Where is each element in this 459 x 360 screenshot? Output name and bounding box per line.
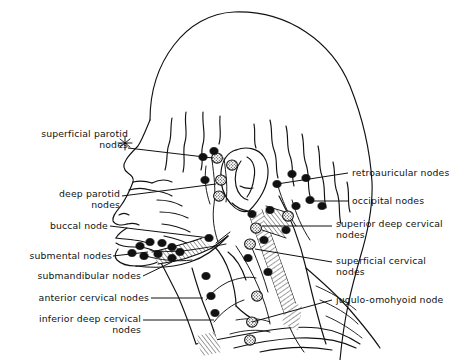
label-inferior-deep-cervical-nodes: inferior deep cervical nodes — [0, 313, 141, 336]
label-jugulo-omohyoid-node: jugulo-omohyoid node — [336, 294, 459, 305]
label-buccal-node: buccal node — [0, 220, 108, 231]
label-occipital-nodes: occipital nodes — [352, 195, 459, 206]
lymph-node-diagram-figure: superficial parotid nodes deep parotid n… — [0, 0, 459, 360]
label-deep-parotid-nodes: deep parotid nodes — [0, 188, 120, 211]
label-retroauricular-nodes: retroauricular nodes — [352, 167, 459, 178]
label-anterior-cervical-nodes: anterior cervical nodes — [0, 292, 149, 303]
label-submandibular-nodes: submandibular nodes — [0, 270, 141, 281]
label-submental-nodes: submental nodes — [0, 250, 112, 261]
label-superficial-cervical-nodes: superficial cervical nodes — [336, 255, 459, 278]
label-superior-deep-cervical-nodes: superior deep cervical nodes — [336, 218, 459, 241]
anatomical-line-art — [0, 0, 459, 360]
label-superficial-parotid-nodes: superficial parotid nodes — [0, 128, 128, 151]
